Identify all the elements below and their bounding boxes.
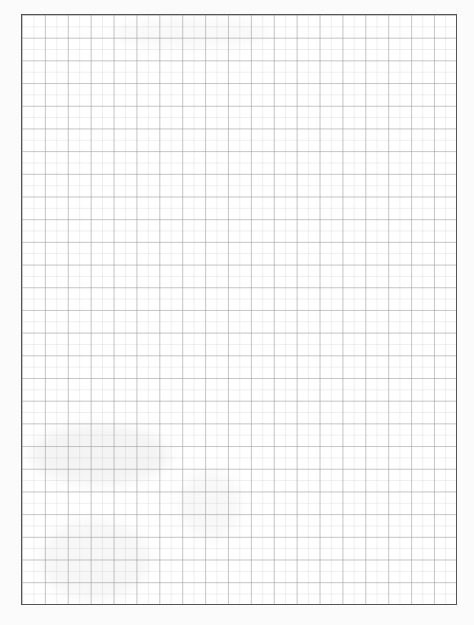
graph-paper-sheet [21,14,457,605]
